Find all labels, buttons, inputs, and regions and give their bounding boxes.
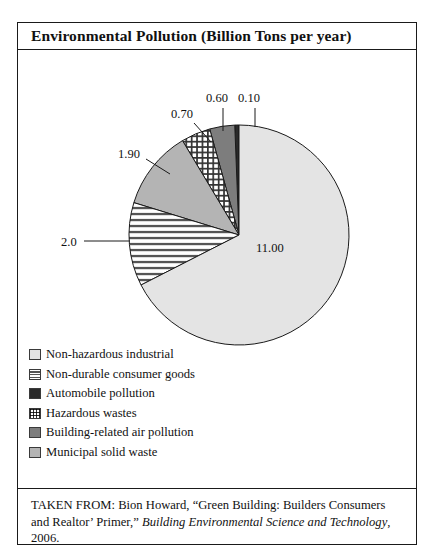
legend-item-non-hazardous-industrial: Non-hazardous industrial <box>29 345 329 365</box>
callout-2-0: 2.0 <box>61 235 77 250</box>
legend-item-automobile-pollution: Automobile pollution <box>29 384 329 404</box>
callout-11-00: 11.00 <box>256 241 284 256</box>
title-bar: Environmental Pollution (Billion Tons pe… <box>18 23 416 49</box>
legend-label: Non-durable consumer goods <box>46 368 195 381</box>
source-citation: TAKEN FROM: Bion Howard, “Green Building… <box>31 497 403 547</box>
legend-label: Hazardous wastes <box>46 407 137 420</box>
source-divider <box>18 488 416 489</box>
legend-item-building-related-air-pollution: Building-related air pollution <box>29 423 329 443</box>
legend-label: Non-hazardous industrial <box>46 348 174 361</box>
light-gray-swatch-icon <box>29 349 41 360</box>
source-publication: Building Environmental Science and Techn… <box>142 515 387 529</box>
dark-gray-swatch-icon <box>29 427 41 438</box>
callout-0-60: 0.60 <box>206 91 228 106</box>
figure-container: Environmental Pollution (Billion Tons pe… <box>17 22 417 545</box>
legend-label: Municipal solid waste <box>46 446 157 459</box>
page-title: Environmental Pollution (Billion Tons pe… <box>31 27 352 45</box>
grid-swatch-icon <box>29 408 41 419</box>
legend: Non-hazardous industrial Non-durable con… <box>29 345 329 462</box>
legend-item-hazardous-wastes: Hazardous wastes <box>29 404 329 424</box>
legend-item-municipal-solid-waste: Municipal solid waste <box>29 443 329 463</box>
legend-label: Building-related air pollution <box>46 426 194 439</box>
pie-slices <box>129 125 349 345</box>
mid-gray-swatch-icon <box>29 447 41 458</box>
callout-1-90: 1.90 <box>118 147 140 162</box>
pie-chart: 0.70 0.60 0.10 1.90 2.0 11.00 <box>18 49 416 349</box>
black-swatch-icon <box>29 388 41 399</box>
callout-0-10: 0.10 <box>238 91 260 106</box>
callout-0-70: 0.70 <box>171 107 193 122</box>
legend-item-non-durable-consumer-goods: Non-durable consumer goods <box>29 365 329 385</box>
hstripe-swatch-icon <box>29 369 41 380</box>
legend-label: Automobile pollution <box>46 387 155 400</box>
